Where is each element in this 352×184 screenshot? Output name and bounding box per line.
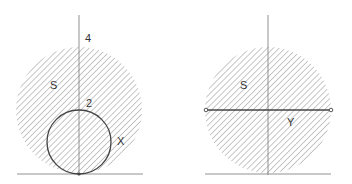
right-panel: S Y <box>204 15 333 175</box>
origin-point <box>77 172 80 175</box>
label-s-right: S <box>240 79 247 91</box>
label-4: 4 <box>85 32 91 44</box>
label-x: X <box>117 135 125 147</box>
segment-right-endpoint <box>329 108 333 112</box>
left-panel: 4 S 2 X <box>16 15 143 176</box>
segment-left-endpoint <box>204 108 208 112</box>
label-2: 2 <box>86 97 92 109</box>
label-s-left: S <box>50 79 57 91</box>
label-y: Y <box>287 116 295 128</box>
diagram-canvas: 4 S 2 X S Y <box>0 0 352 184</box>
